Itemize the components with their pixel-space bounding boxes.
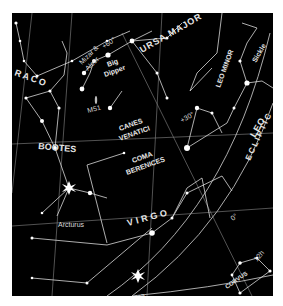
ecliptic-arcs: [107, 33, 273, 296]
label-ursa-major: URSA MAJOR: [138, 13, 204, 55]
star-chart-canvas: RACO URSA MAJOR LEO MINOR Sickle BOOTES …: [12, 13, 273, 296]
label-virgo: VIRGO: [126, 207, 171, 228]
label-dipper: Dipper: [103, 64, 127, 79]
label-m51: M51: [86, 104, 101, 114]
label-bootes: BOOTES: [38, 141, 77, 154]
bright-stars: [62, 181, 145, 283]
label-arcturus: Arcturus: [58, 221, 85, 228]
m51-galaxy-icon: [95, 96, 97, 104]
star-chart: RACO URSA MAJOR LEO MINOR Sickle BOOTES …: [12, 13, 273, 296]
label-corvus: CORVUS: [224, 270, 248, 290]
label-leo-minor: LEO MINOR: [214, 49, 234, 89]
label-draco: RACO: [13, 67, 49, 88]
label-dec-30: +30°: [179, 110, 195, 123]
label-dec-0: 0°: [229, 212, 239, 222]
label-ra-12h: 12h: [252, 249, 265, 263]
